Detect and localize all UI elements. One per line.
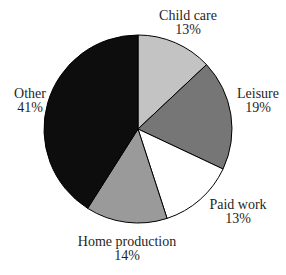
slice-label-text-leisure: Leisure [237,87,279,101]
slice-label-text-home-production: Home production [78,235,176,249]
slice-label-pct-other: 41% [14,101,46,115]
slice-label-pct-home-production: 14% [78,249,176,263]
slice-label-text-paid-work: Paid work [209,198,266,212]
slice-label-other: Other41% [14,87,46,115]
slice-label-pct-child-care: 13% [159,23,217,37]
slice-label-leisure: Leisure19% [237,87,279,115]
slice-label-child-care: Child care13% [159,9,217,37]
slice-label-pct-leisure: 19% [237,101,279,115]
slice-label-pct-paid-work: 13% [209,212,266,226]
slice-label-text-child-care: Child care [159,9,217,23]
slice-label-paid-work: Paid work13% [209,198,266,226]
pie-chart-figure: Child care13%Leisure19%Paid work13%Home … [0,0,286,275]
slice-label-home-production: Home production14% [78,235,176,263]
slice-label-text-other: Other [14,87,46,101]
